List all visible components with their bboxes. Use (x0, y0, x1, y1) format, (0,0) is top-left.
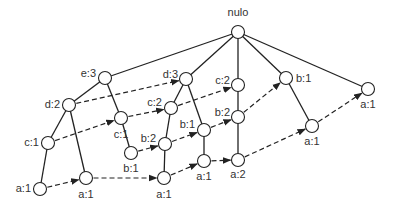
link-arrow-a1d-a2 (211, 160, 230, 161)
node-a1c (158, 172, 171, 185)
node-a1b (80, 172, 93, 185)
fp-tree-diagram: nuloe:3d:3c:2b:1a:1d:2c:2c:1b:2b:1b:2c:1… (0, 0, 393, 208)
link-arrow-b1l-b2m (138, 146, 157, 151)
node-label-root: nulo (228, 6, 249, 18)
node-c2m (165, 102, 178, 115)
tree-edge-d2-a1b (69, 105, 86, 178)
node-d2 (63, 99, 76, 112)
node-label-b1m: b:1 (180, 118, 195, 130)
tree-edge-root-d3 (186, 32, 238, 79)
node-c2r (232, 79, 245, 92)
link-arrow-d2-d3 (76, 81, 178, 104)
node-b1m (198, 124, 211, 137)
node-label-c2r: c:2 (215, 74, 230, 86)
link-arrow-a1e-a1far (318, 93, 361, 122)
node-d3 (180, 73, 193, 86)
link-arrow-c2m-c2r (178, 87, 231, 105)
link-arrow-c1l-c1m (55, 120, 114, 140)
node-label-a1l: a:1 (16, 182, 31, 194)
link-arrow-b2r-b1r (244, 83, 280, 113)
node-label-b1r: b:1 (296, 72, 311, 84)
node-b1l (125, 147, 138, 160)
node-a2 (232, 154, 245, 167)
node-b2m (159, 138, 172, 151)
link-arrow-c1m-c2m (128, 109, 163, 116)
node-root (232, 26, 245, 39)
node-label-c2m: c:2 (147, 96, 162, 108)
node-label-b2m: b:2 (141, 132, 156, 144)
node-c1m (115, 112, 128, 125)
node-label-c1m: c:1 (114, 128, 129, 140)
link-arrow-a2-a1e (245, 129, 305, 157)
node-label-c1l: c:1 (24, 136, 39, 148)
node-label-a1far: a:1 (360, 98, 375, 110)
tree-edge-root-b1r (238, 32, 286, 78)
node-label-d3: d:3 (163, 68, 178, 80)
node-a1d (198, 155, 211, 168)
node-label-a1c: a:1 (156, 188, 171, 200)
node-a1l (34, 183, 47, 196)
link-arrow-b2m-b1m (172, 133, 197, 142)
tree-edge-b1r-a1e (286, 78, 312, 126)
node-label-d2: d:2 (45, 98, 60, 110)
node-label-a1d: a:1 (196, 170, 211, 182)
node-label-b1l: b:1 (123, 162, 138, 174)
node-b2r (232, 111, 245, 124)
node-a1e (306, 120, 319, 133)
node-a1far (362, 83, 375, 96)
node-b1r (280, 72, 293, 85)
node-label-a2: a:2 (230, 168, 245, 180)
link-arrow-a1l-a1b (47, 180, 78, 188)
node-label-e3: e:3 (81, 67, 96, 79)
link-arrow-b1m-b2r (211, 120, 231, 128)
link-arrow-a1c-a1d (171, 164, 197, 175)
node-label-a1e: a:1 (304, 135, 319, 147)
node-label-b2r: b:2 (215, 106, 230, 118)
node-label-a1b: a:1 (78, 188, 93, 200)
node-e3 (99, 72, 112, 85)
node-c1l (42, 137, 55, 150)
